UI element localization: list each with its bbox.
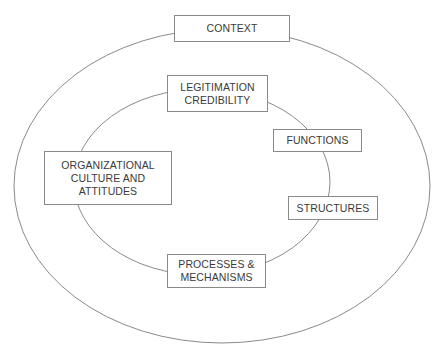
- functions-label: FUNCTIONS: [286, 134, 348, 147]
- structures-box: STRUCTURES: [288, 196, 378, 220]
- context-box: CONTEXT: [174, 15, 290, 42]
- legitimation-credibility-label: LEGITIMATION CREDIBILITY: [180, 81, 255, 107]
- functions-box: FUNCTIONS: [273, 129, 362, 152]
- processes-mechanisms-label: PROCESSES & MECHANISMS: [178, 258, 254, 284]
- legitimation-credibility-box: LEGITIMATION CREDIBILITY: [167, 75, 268, 112]
- processes-mechanisms-box: PROCESSES & MECHANISMS: [167, 254, 266, 288]
- organizational-culture-box: ORGANIZATIONAL CULTURE AND ATTITUDES: [44, 151, 172, 205]
- context-label: CONTEXT: [207, 22, 258, 35]
- organizational-culture-label: ORGANIZATIONAL CULTURE AND ATTITUDES: [61, 159, 154, 198]
- structures-label: STRUCTURES: [297, 202, 370, 215]
